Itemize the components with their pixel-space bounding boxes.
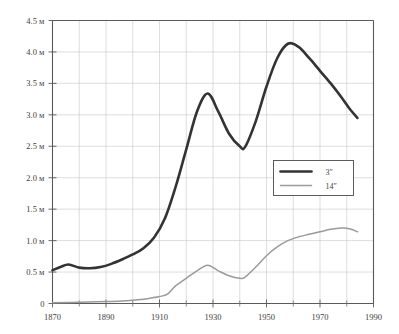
line-chart: 00.5 м1.0 м1.5 м2.0 м2.5 м3.0 м3.5 м4.0 … (0, 0, 399, 334)
chart-container: 00.5 м1.0 м1.5 м2.0 м2.5 м3.0 м3.5 м4.0 … (0, 0, 399, 334)
y-tick-label: 4.0 м (26, 47, 45, 57)
legend-box (274, 161, 354, 196)
x-tick-label: 1990 (365, 312, 382, 322)
x-tick-label: 1950 (258, 312, 275, 322)
x-tick-label: 1890 (98, 312, 115, 322)
legend-label: 3ʺ (326, 168, 333, 177)
y-tick-label: 3.5 м (26, 78, 45, 88)
y-tick-label: 1.0 м (26, 236, 45, 246)
x-tick-label: 1910 (151, 312, 168, 322)
x-tick-label: 1870 (44, 312, 61, 322)
y-tick-label: 3.0 м (26, 110, 45, 120)
y-tick-label: 1.5 м (26, 204, 45, 214)
x-tick-label: 1930 (205, 312, 222, 322)
y-tick-label: 2.0 м (26, 173, 45, 183)
x-tick-label: 1970 (312, 312, 329, 322)
chart-legend: 3ʺ14ʺ (274, 161, 354, 196)
y-tick-label: 2.5 м (26, 141, 45, 151)
y-tick-label: 0 (40, 299, 44, 309)
y-tick-label: 4.5 м (26, 16, 45, 26)
y-tick-label: 0.5 м (26, 267, 45, 277)
legend-label: 14ʺ (326, 182, 337, 191)
